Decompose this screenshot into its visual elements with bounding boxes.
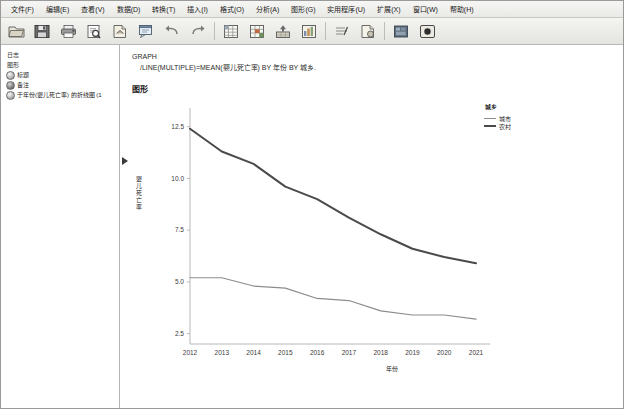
toolbar-dialog-recall[interactable] — [134, 19, 158, 43]
toolbar — [1, 18, 623, 45]
chart-canvas: 12.510.07.55.02.520122013201420152016201… — [132, 96, 612, 386]
svg-text:2019: 2019 — [405, 349, 420, 356]
toolbar-open[interactable] — [4, 19, 28, 43]
toolbar-save[interactable] — [30, 19, 54, 43]
menu-format[interactable]: 格式(O) — [214, 3, 250, 15]
menu-file[interactable]: 文件(F) — [5, 3, 40, 15]
toolbar-goto-case[interactable] — [245, 19, 269, 43]
toolbar-show-hide[interactable] — [389, 19, 413, 43]
menu-graphs[interactable]: 图形(G) — [285, 3, 321, 15]
toolbar-variables[interactable] — [271, 19, 295, 43]
toolbar-print-preview[interactable] — [82, 19, 106, 43]
syntax-line-2: /LINE(MULTIPLE)=MEAN(婴儿死亡率) BY 年份 BY 城乡. — [132, 62, 623, 73]
section-title: 图形 — [132, 83, 623, 94]
line-chart[interactable]: 12.510.07.55.02.520122013201420152016201… — [132, 96, 612, 386]
toolbar-redo[interactable] — [186, 19, 210, 43]
svg-text:2020: 2020 — [437, 349, 452, 356]
toolbar-print[interactable] — [56, 19, 80, 43]
toolbar-separator — [214, 22, 215, 40]
x-axis-title-text: 年份 — [346, 366, 398, 372]
menu-help[interactable]: 帮助(H) — [444, 3, 480, 15]
svg-text:5.0: 5.0 — [175, 278, 184, 285]
menu-transform[interactable]: 转换(T) — [146, 3, 181, 15]
viewer-split: 日志 图形 标题 备注 于年份(婴儿死亡率) 的折线图 (1 — [1, 45, 623, 408]
menu-insert[interactable]: 插入(I) — [181, 3, 214, 15]
svg-text:10.0: 10.0 — [171, 175, 184, 182]
x-axis-title: 年份 — [132, 364, 612, 373]
outline-node-graph-root[interactable]: 图形 — [4, 61, 119, 70]
chart-legend: 城乡 城市 农村 — [484, 102, 511, 130]
svg-text:2014: 2014 — [246, 349, 261, 356]
outline-node-title-label: 标题 — [17, 71, 29, 80]
book-icon — [6, 71, 15, 80]
book-dark-icon — [6, 81, 15, 90]
legend-item-rural: 农村 — [484, 122, 511, 130]
toolbar-select[interactable] — [415, 19, 439, 43]
outline-node-log-root[interactable]: 日志 — [4, 51, 119, 60]
menu-extensions[interactable]: 扩展(X) — [371, 3, 406, 15]
syntax-line-1: GRAPH — [132, 51, 623, 62]
legend-title: 城乡 — [484, 102, 511, 111]
outline-node-line-chart-label: 于年份(婴儿死亡率) 的折线图 (1 — [17, 91, 102, 100]
toolbar-demote[interactable] — [356, 19, 380, 43]
svg-text:2015: 2015 — [278, 349, 293, 356]
menu-data[interactable]: 数据(D) — [111, 3, 147, 15]
toolbar-separator — [325, 22, 326, 40]
outline-node-log-root-label: 日志 — [7, 51, 19, 60]
legend-swatch-rural — [484, 125, 496, 127]
y-axis-title: 婴儿死亡率 — [134, 176, 143, 211]
outline-node-line-chart[interactable]: 于年份(婴儿死亡率) 的折线图 (1 — [4, 91, 119, 100]
spss-viewer-window: 文件(F) 编辑(E) 查看(V) 数据(D) 转换(T) 插入(I) 格式(O… — [0, 0, 624, 409]
menu-window[interactable]: 窗口(W) — [407, 3, 444, 15]
outline-pane[interactable]: 日志 图形 标题 备注 于年份(婴儿死亡率) 的折线图 (1 — [1, 45, 120, 408]
output-pane[interactable]: GRAPH /LINE(MULTIPLE)=MEAN(婴儿死亡率) BY 年份 … — [120, 45, 623, 408]
selection-marker-icon — [122, 157, 128, 165]
toolbar-goto-data[interactable] — [219, 19, 243, 43]
output-content: GRAPH /LINE(MULTIPLE)=MEAN(婴儿死亡率) BY 年份 … — [120, 45, 623, 386]
toolbar-export[interactable] — [108, 19, 132, 43]
toolbar-separator — [384, 22, 385, 40]
outline-node-graph-root-label: 图形 — [7, 61, 19, 70]
svg-text:2018: 2018 — [373, 349, 388, 356]
svg-text:2021: 2021 — [469, 349, 484, 356]
menu-analyze[interactable]: 分析(A) — [250, 3, 285, 15]
svg-text:2012: 2012 — [183, 349, 198, 356]
outline-node-notes-label: 备注 — [17, 81, 29, 90]
toolbar-promote[interactable] — [330, 19, 354, 43]
toolbar-undo[interactable] — [160, 19, 184, 43]
menu-view[interactable]: 查看(V) — [75, 3, 110, 15]
syntax-block: GRAPH /LINE(MULTIPLE)=MEAN(婴儿死亡率) BY 年份 … — [132, 51, 623, 73]
menu-bar: 文件(F) 编辑(E) 查看(V) 数据(D) 转换(T) 插入(I) 格式(O… — [1, 1, 623, 18]
svg-text:2016: 2016 — [310, 349, 325, 356]
svg-text:2017: 2017 — [342, 349, 357, 356]
outline-node-title[interactable]: 标题 — [4, 71, 119, 80]
legend-swatch-urban — [484, 118, 496, 119]
book-icon — [6, 91, 15, 100]
svg-text:2013: 2013 — [215, 349, 230, 356]
menu-utilities[interactable]: 实用程序(U) — [321, 3, 371, 15]
outline-node-notes[interactable]: 备注 — [4, 81, 119, 90]
svg-text:12.5: 12.5 — [171, 123, 184, 130]
menu-edit[interactable]: 编辑(E) — [40, 3, 75, 15]
legend-label-rural: 农村 — [499, 122, 511, 131]
svg-text:7.5: 7.5 — [175, 226, 184, 233]
svg-text:2.5: 2.5 — [175, 330, 184, 337]
toolbar-insert-chart[interactable] — [297, 19, 321, 43]
